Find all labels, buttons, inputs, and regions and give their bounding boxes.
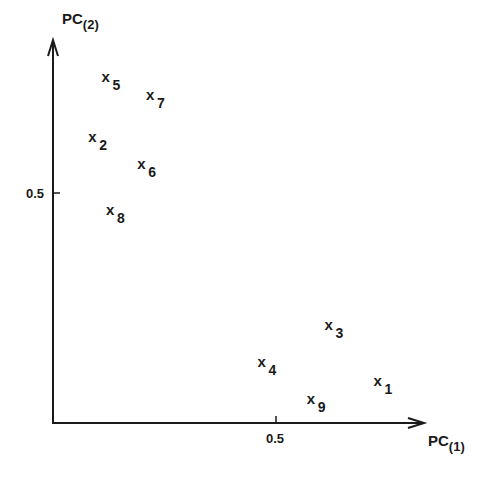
data-point: x5 (102, 68, 121, 93)
axes: 0.5 0.5 PC(2) PC(1) (26, 10, 465, 454)
x-marker-icon: x (325, 316, 334, 333)
point-label: 9 (318, 399, 326, 415)
y-axis-label: PC(2) (62, 10, 99, 32)
data-point: x9 (307, 390, 326, 415)
point-label: 3 (336, 325, 344, 341)
x-marker-icon: x (374, 372, 383, 389)
point-label: 4 (269, 362, 277, 378)
data-points: x1x2x3x4x5x6x7x8x9 (88, 68, 392, 415)
x-marker-icon: x (88, 128, 97, 145)
point-label: 8 (117, 210, 125, 226)
point-label: 6 (148, 164, 156, 180)
x-marker-icon: x (102, 68, 111, 85)
point-label: 2 (99, 137, 107, 153)
x-marker-icon: x (106, 201, 115, 218)
x-marker-icon: x (137, 155, 146, 172)
data-point: x3 (325, 316, 344, 341)
x-axis-label: PC(1) (428, 432, 465, 454)
y-tick-label: 0.5 (26, 186, 44, 201)
x-marker-icon: x (146, 86, 155, 103)
data-point: x7 (146, 86, 165, 111)
data-point: x6 (137, 155, 156, 180)
x-marker-icon: x (307, 390, 316, 407)
x-tick-label: 0.5 (266, 431, 284, 446)
data-point: x4 (258, 353, 277, 378)
data-point: x8 (106, 201, 125, 226)
x-marker-icon: x (258, 353, 267, 370)
point-label: 1 (385, 381, 393, 397)
scatter-chart: 0.5 0.5 PC(2) PC(1) x1x2x3x4x5x6x7x8x9 (0, 0, 503, 478)
data-point: x2 (88, 128, 107, 153)
data-point: x1 (374, 372, 393, 397)
point-label: 5 (113, 77, 121, 93)
point-label: 7 (157, 95, 165, 111)
